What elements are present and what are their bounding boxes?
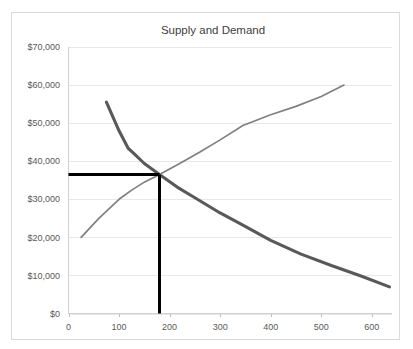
gridlines: [69, 48, 393, 315]
x-axis-tick-label: 600: [364, 322, 379, 332]
y-axis-tick-label: $70,000: [27, 42, 60, 52]
x-axis-tick-label: 300: [213, 322, 228, 332]
x-axis-tick-labels: 0100200300400500600: [66, 322, 379, 332]
y-axis-tick-label: $0: [50, 309, 60, 319]
x-axis-tick-label: 400: [263, 322, 278, 332]
equilibrium-annotations: [69, 175, 160, 314]
y-axis-tick-label: $30,000: [27, 194, 60, 204]
y-axis-tick-labels: $0$10,000$20,000$30,000$40,000$50,000$60…: [27, 42, 60, 319]
y-axis-tick-label: $60,000: [27, 80, 60, 90]
x-axis-tick-label: 0: [66, 322, 71, 332]
data-series: [81, 85, 389, 287]
chart-title: Supply and Demand: [161, 24, 265, 36]
series-line-demand: [106, 102, 389, 287]
y-axis-tick-label: $10,000: [27, 271, 60, 281]
x-axis-tick-label: 100: [112, 322, 127, 332]
y-axis-tick-label: $50,000: [27, 118, 60, 128]
supply-and-demand-chart: Supply and Demand $0$10,000$20,000$30,00…: [0, 0, 413, 349]
x-axis-tick-label: 200: [162, 322, 177, 332]
x-axis-tick-label: 500: [314, 322, 329, 332]
y-axis-tick-label: $20,000: [27, 233, 60, 243]
y-axis-tick-label: $40,000: [27, 156, 60, 166]
